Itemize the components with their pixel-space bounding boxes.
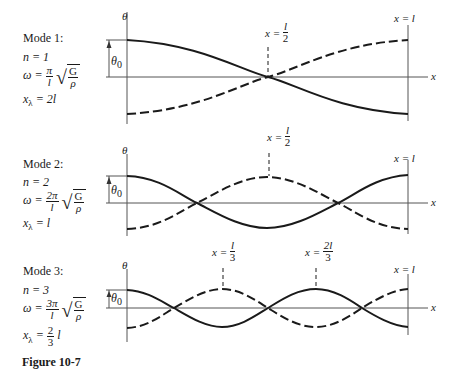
mode-1-n: n = 1 [23,50,49,64]
theta-axis-label: θ [122,10,127,22]
mode-3-n: n = 3 [23,283,49,297]
mode-2-wavelength: xλ = l [23,216,50,234]
x-axis-label: x [431,196,436,208]
right-end-label: x = l [394,263,415,275]
node-label-third: x = l3 [212,240,235,263]
mode-1-omega: ω = πl √Gρ [23,64,80,89]
node-label-two-thirds: x = 2l3 [305,240,333,263]
theta-axis-label: θ [122,144,127,156]
mode-2-omega: ω = 2πl √Gρ [23,189,86,214]
mode-2-n: n = 2 [23,175,49,189]
figure-caption: Figure 10-7 [22,355,81,370]
node-label: x = l2 [267,125,290,148]
mode-1-wavelength: xλ = 2l [23,92,56,110]
right-end-label: x = l [394,12,415,24]
node-label: x = l2 [265,21,288,44]
mode-3-plot [106,268,428,342]
theta-axis-label: θ [122,259,127,271]
mode-2-title: Mode 2: [23,157,63,171]
theta0-label: θ0 [111,54,122,72]
right-end-label: x = l [394,152,415,164]
mode-3-title: Mode 3: [23,264,63,278]
mode-1-title: Mode 1: [23,31,63,45]
arrow-up-icon [107,41,112,48]
mode-3-omega: ω = 3πl √Gρ [23,297,86,322]
x-axis-label: x [431,301,436,313]
mode-2-plot [106,153,428,236]
theta0-label: θ0 [111,291,122,309]
x-axis-label: x [431,70,436,82]
theta0-label: θ0 [111,183,122,201]
mode-3-wavelength: xλ = 23 l [23,325,61,348]
